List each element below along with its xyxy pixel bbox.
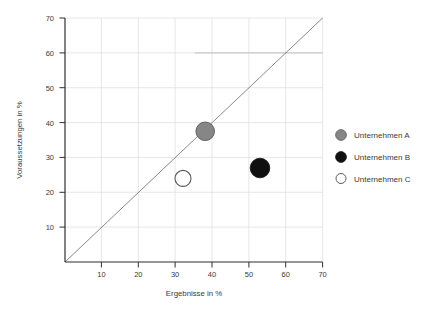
y-axis-ticks: [60, 18, 66, 227]
x-tick-label-10: 10: [97, 270, 105, 279]
legend-label-unternehmen-b: Unternehmen B: [354, 153, 410, 162]
data-point-unternehmen-c[interactable]: [175, 170, 191, 186]
data-point-unternehmen-b[interactable]: [250, 158, 270, 178]
y-tick-label-30: 30: [46, 153, 54, 162]
legend-marker-unternehmen-b: [336, 152, 347, 163]
legend-item-unternehmen-b[interactable]: Unternehmen B: [336, 152, 410, 163]
y-tick-label-40: 40: [46, 119, 54, 128]
x-tick-label-30: 30: [171, 270, 179, 279]
x-tick-label-60: 60: [282, 270, 290, 279]
x-axis-ticks: [101, 262, 322, 268]
y-tick-label-10: 10: [46, 223, 54, 232]
chart-canvas: 10 20 30 40 50 60 70 10 20 30 40 50 60 7…: [0, 0, 447, 313]
x-tick-label-50: 50: [245, 270, 253, 279]
y-tick-label-20: 20: [46, 188, 54, 197]
y-tick-label-70: 70: [46, 14, 54, 23]
legend-label-unternehmen-c: Unternehmen C: [354, 175, 411, 184]
legend-item-unternehmen-c[interactable]: Unternehmen C: [336, 174, 411, 184]
legend-marker-unternehmen-c: [336, 174, 346, 184]
x-tick-label-20: 20: [134, 270, 142, 279]
legend-marker-unternehmen-a: [336, 130, 347, 141]
horizontal-gridlines: [65, 18, 323, 227]
diagonal-reference-line: [65, 18, 323, 262]
x-tick-label-40: 40: [208, 270, 216, 279]
legend-label-unternehmen-a: Unternehmen A: [354, 131, 410, 140]
legend: Unternehmen A Unternehmen B Unternehmen …: [336, 130, 411, 184]
y-axis-title: Voraussetzungen in %: [15, 101, 24, 179]
y-tick-label-50: 50: [46, 84, 54, 93]
x-axis-title: Ergebnisse in %: [166, 289, 222, 298]
x-tick-label-70: 70: [318, 270, 326, 279]
y-tick-label-60: 60: [46, 49, 54, 58]
scatter-chart: 10 20 30 40 50 60 70 10 20 30 40 50 60 7…: [0, 0, 447, 313]
legend-item-unternehmen-a[interactable]: Unternehmen A: [336, 130, 411, 141]
vertical-gridlines: [101, 18, 322, 262]
data-point-unternehmen-a[interactable]: [196, 122, 215, 141]
